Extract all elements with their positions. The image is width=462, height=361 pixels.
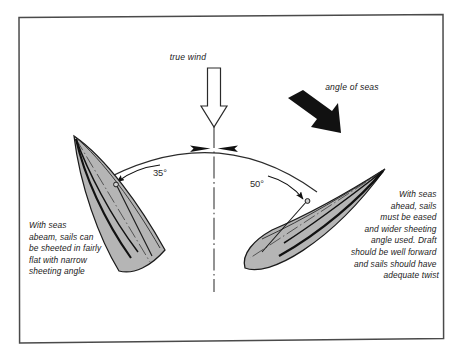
left-caption-line: abeam, sails can <box>29 232 94 242</box>
right-caption-line: must be eased <box>380 212 436 222</box>
right-caption-line: and sails should have <box>354 259 437 269</box>
right-caption-line: adequate twist <box>384 270 440 280</box>
sailing-diagram: true wind angle of seas 35° 50° With sea… <box>0 0 462 361</box>
right-caption-line: and wider sheeting <box>364 224 436 234</box>
port-mast <box>114 182 119 187</box>
left-caption-line: With seas <box>29 220 67 230</box>
left-caption: With seas abeam, sails can be sheeted in… <box>29 220 104 276</box>
right-caption-line: ahead, sails <box>391 201 438 211</box>
diagram-page: true wind angle of seas 35° 50° With sea… <box>0 0 462 361</box>
right-caption: With seas ahead, sails must be eased and… <box>351 189 440 280</box>
true-wind-label: true wind <box>170 52 207 62</box>
true-wind-arrow <box>201 68 227 127</box>
right-caption-line: With seas <box>399 189 437 199</box>
left-caption-line: sheeting angle <box>29 266 85 276</box>
tack-angle-arc <box>95 153 317 192</box>
left-caption-line: be sheeted in fairly <box>29 243 102 253</box>
starboard-angle-label: 50° <box>250 178 264 189</box>
angle-of-seas-arrow <box>288 90 341 133</box>
starboard-mast <box>305 199 310 204</box>
left-caption-line: flat with narrow <box>29 255 88 265</box>
right-caption-line: should be well forward <box>351 247 437 257</box>
right-caption-line: angle used. Draft <box>371 235 437 245</box>
angle-of-seas-label: angle of seas <box>325 82 379 92</box>
port-angle-label: 35° <box>153 167 167 178</box>
